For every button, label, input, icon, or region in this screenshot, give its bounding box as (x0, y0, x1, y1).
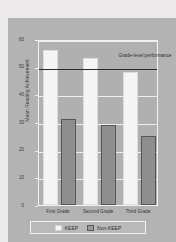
bar-non-keep-third-grade (141, 136, 156, 205)
y-tick-label: 50 (6, 65, 24, 70)
legend-item-keep: KEEP (55, 225, 78, 231)
x-tick-label: First Grade (38, 209, 78, 214)
grade-level-reference-line (39, 69, 157, 70)
bar-non-keep-second-grade (101, 125, 116, 205)
x-tick-label: Second Grade (78, 209, 118, 214)
y-tick-label: 40 (6, 93, 24, 98)
y-tick-label: 20 (6, 148, 24, 153)
y-tick-label: 0 (6, 204, 24, 209)
legend-label-keep: KEEP (65, 225, 78, 231)
y-tick-label: 30 (6, 121, 24, 126)
y-axis-title: Mean Reading Achievement (25, 36, 30, 146)
legend-item-non-keep: Non-KEEP (87, 225, 121, 231)
grade-level-annotation: Grade-level performance (118, 53, 172, 59)
bar-keep-second-grade (83, 58, 98, 205)
chart-legend: KEEP Non-KEEP (30, 221, 146, 234)
gridline (39, 41, 157, 42)
legend-swatch-keep (55, 225, 62, 231)
bar-non-keep-first-grade (61, 119, 76, 205)
chart-figure: Mean Reading Achievement 0102030405060 G… (8, 18, 176, 242)
legend-swatch-non-keep (87, 225, 94, 231)
bar-keep-first-grade (43, 50, 58, 205)
plot-area (38, 40, 158, 206)
legend-label-non-keep: Non-KEEP (97, 225, 121, 231)
bar-keep-third-grade (123, 72, 138, 205)
x-tick-label: Third Grade (118, 209, 158, 214)
y-tick-label: 10 (6, 176, 24, 181)
y-tick-mark (35, 206, 38, 207)
y-tick-label: 60 (6, 38, 24, 43)
